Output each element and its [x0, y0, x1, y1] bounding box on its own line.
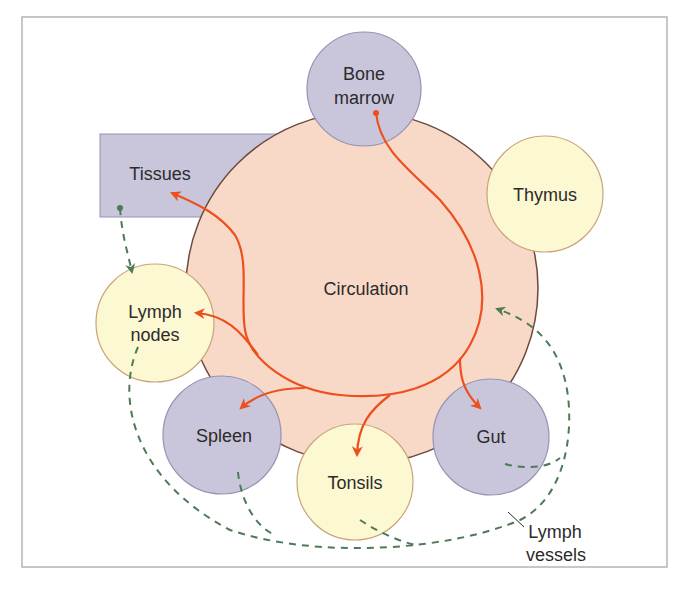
lymph-nodes-circle — [96, 264, 214, 382]
circulation-label: Circulation — [323, 279, 408, 299]
lymph-nodes-label-line2: nodes — [130, 325, 179, 345]
lymph-vessels-label-line2: vessels — [526, 545, 586, 565]
lymph-nodes-node — [96, 264, 214, 382]
bone-marrow-label-line1: Bone — [343, 64, 385, 84]
lymph-vessels-label-line1: Lymph — [528, 522, 581, 542]
spleen-label: Spleen — [196, 426, 252, 446]
gut-label: Gut — [476, 427, 505, 447]
lymph-nodes-label-line1: Lymph — [128, 302, 181, 322]
tissues-label: Tissues — [129, 164, 190, 184]
bone-marrow-label-line2: marrow — [334, 88, 395, 108]
tonsils-label: Tonsils — [327, 473, 382, 493]
thymus-label: Thymus — [513, 185, 577, 205]
immune-circulation-diagram: Circulation Bone marrow Thymus Tissues L… — [0, 0, 688, 591]
